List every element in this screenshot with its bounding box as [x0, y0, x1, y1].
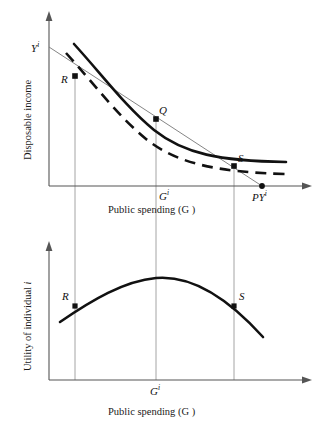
upper-point-label-s: S — [238, 152, 244, 164]
upper-y-intercept-label: Yi — [31, 40, 39, 54]
figure-svg — [0, 0, 324, 433]
upper-point-label-q: Q — [159, 104, 167, 116]
lower-chart-group — [46, 241, 312, 383]
point-marker-s-upper — [231, 163, 237, 169]
upper-y-axis-arrow — [46, 11, 53, 21]
lower-point-label-r: R — [62, 290, 69, 302]
point-marker-r-upper — [72, 73, 78, 79]
upper-y-intercept-sup: i — [37, 40, 39, 49]
point-marker-s-lower — [231, 303, 236, 308]
upper-x-axis-arrow — [302, 183, 312, 190]
lower-y-axis-label-text: Utility of individual — [22, 287, 33, 371]
upper-x-intercept-sup: i — [265, 189, 267, 198]
lower-x-axis-arrow — [302, 377, 312, 384]
point-marker-q-upper — [153, 116, 159, 122]
lower-point-label-s: S — [239, 290, 245, 302]
lower-y-axis-label-sup: i — [22, 282, 33, 285]
upper-point-label-r: R — [61, 73, 68, 85]
lower-x-tick-text: G — [150, 385, 158, 397]
upper-x-axis-label: Public spending (G ) — [108, 204, 195, 215]
upper-x-intercept-label: PYi — [252, 189, 267, 203]
lower-y-axis-label: Utility of individual i — [22, 282, 33, 371]
upper-x-tick-sup: i — [167, 188, 169, 197]
indifference-curve-solid — [74, 44, 286, 162]
upper-y-axis-label: Disposable income — [22, 80, 33, 160]
lower-x-axis-label: Public spending (G ) — [108, 406, 195, 417]
lower-x-tick-sup: i — [158, 383, 160, 392]
lower-y-axis-arrow — [46, 241, 53, 251]
upper-x-intercept-text: PY — [252, 191, 265, 203]
economics-figure: Disposable income Yi R Q S PYi Gi Public… — [0, 0, 324, 433]
upper-x-tick-text: G — [159, 190, 167, 202]
upper-chart-group — [46, 11, 312, 189]
lower-x-tick-label: Gi — [150, 383, 160, 397]
upper-x-tick-label: Gi — [159, 188, 169, 202]
point-marker-r-lower — [72, 303, 77, 308]
